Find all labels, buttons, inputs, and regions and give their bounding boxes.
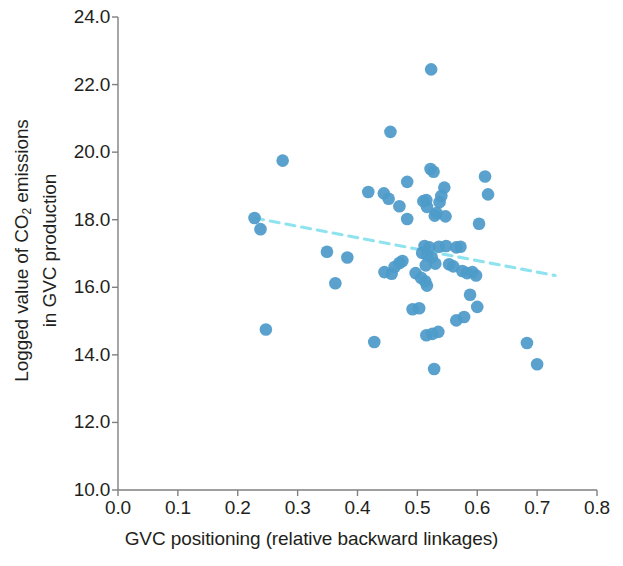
data-point: [433, 196, 446, 209]
trendline: [255, 218, 556, 275]
data-point: [368, 336, 381, 349]
data-points: [248, 63, 543, 375]
data-point: [464, 288, 477, 301]
data-point: [482, 188, 495, 201]
data-point: [439, 210, 452, 223]
data-point: [419, 259, 432, 272]
data-point: [471, 301, 484, 314]
plot-area: [0, 0, 623, 566]
data-point: [401, 176, 414, 189]
data-point: [276, 154, 289, 167]
data-point: [454, 240, 467, 253]
data-point: [473, 217, 486, 230]
data-point: [428, 209, 441, 222]
data-point: [329, 277, 342, 290]
data-point: [425, 63, 438, 76]
data-point: [378, 266, 391, 279]
data-point: [341, 251, 354, 264]
tick-marks: [112, 17, 597, 496]
data-point: [531, 358, 544, 371]
data-point: [428, 363, 441, 376]
data-point: [248, 212, 261, 225]
data-point: [421, 279, 434, 292]
data-point: [427, 165, 440, 178]
trendline-segment: [255, 218, 556, 275]
data-point: [432, 326, 445, 339]
data-point: [321, 246, 334, 259]
data-point: [450, 314, 463, 327]
data-point: [260, 323, 273, 336]
data-point: [401, 213, 414, 226]
data-point: [382, 192, 395, 205]
data-point: [393, 200, 406, 213]
data-point: [521, 337, 534, 350]
data-point: [362, 186, 375, 199]
data-point: [479, 170, 492, 183]
data-point: [470, 269, 483, 282]
data-point: [413, 302, 426, 315]
scatter-plot-figure: Logged value of CO2 emissions in GVC pro…: [0, 0, 623, 566]
data-point: [254, 223, 267, 236]
data-point: [384, 126, 397, 139]
axis-lines: [118, 17, 597, 490]
